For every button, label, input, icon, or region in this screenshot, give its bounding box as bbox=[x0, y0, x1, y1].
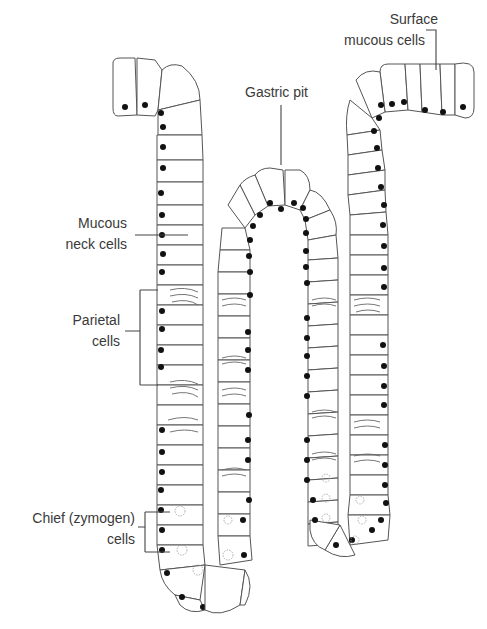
left-gland-base bbox=[205, 565, 250, 613]
left-column-cells bbox=[157, 100, 205, 612]
right-surface-cells bbox=[356, 63, 474, 118]
middle-column-cells bbox=[218, 168, 338, 565]
parietal-label-line2: cells bbox=[50, 331, 120, 351]
chief-label-line2: cells bbox=[60, 529, 135, 549]
surface-mucous-label: Surface bbox=[386, 9, 438, 29]
mucous-neck-label-line2: neck cells bbox=[42, 234, 127, 254]
surface-mucous-label-line2: mucous cells bbox=[320, 30, 425, 50]
chief-label-line1: Chief (zymogen) bbox=[10, 508, 135, 528]
surface-mucous-label-line1: Surface bbox=[386, 9, 438, 29]
gastric-gland-diagram: Surface mucous cells Gastric pit Mucous … bbox=[0, 0, 487, 629]
mucous-neck-label-line1: Mucous bbox=[62, 213, 127, 233]
parietal-label-line1: Parietal bbox=[50, 310, 120, 330]
gastric-pit-label: Gastric pit bbox=[245, 82, 308, 102]
